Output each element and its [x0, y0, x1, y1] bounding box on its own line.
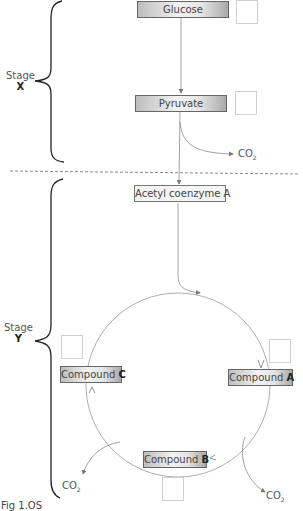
- figure-caption: Fig 1.OS: [1, 500, 42, 511]
- compound-a-letter: A: [287, 372, 295, 383]
- acetyl-coa-label: Acetyl coenzyme A: [135, 188, 230, 199]
- answer-box-compound-a[interactable]: [269, 339, 291, 363]
- glucose-label: Glucose: [163, 4, 203, 15]
- pyruvate-label: Pyruvate: [159, 98, 204, 109]
- compound-b-prefix: Compound: [144, 454, 202, 465]
- compound-c-prefix: Compound: [61, 369, 119, 380]
- co2-label-compound-a: CO2: [266, 490, 285, 503]
- stage-x-label: Stage X: [6, 70, 35, 92]
- acetyl-coa-node: Acetyl coenzyme A: [134, 185, 226, 202]
- stage-y-brace: [35, 179, 63, 498]
- arrow-acetyl-cycle: [178, 203, 200, 293]
- answer-box-compound-b[interactable]: [162, 477, 184, 501]
- co2-label-compound-c: CO2: [62, 480, 81, 493]
- answer-box-compound-c[interactable]: [61, 335, 83, 359]
- answer-box-pyruvate[interactable]: [235, 91, 257, 115]
- arrow-pyruvate-co2: [180, 122, 233, 154]
- co2-label-pyruvate: CO2: [238, 148, 257, 161]
- stage-x-letter: X: [6, 81, 35, 92]
- compound-b-letter: B: [202, 454, 210, 465]
- arrow-compoundC-co2: [83, 442, 120, 474]
- stage-x-text: Stage: [6, 70, 35, 81]
- compound-c-letter: C: [119, 369, 126, 380]
- arrow-compoundA-co2: [242, 437, 265, 492]
- compound-a-node: Compound A: [228, 369, 293, 386]
- stage-x-brace: [35, 1, 64, 162]
- compound-b-node: Compound B: [143, 451, 207, 468]
- stage-y-label: Stage Y: [4, 322, 33, 344]
- answer-box-glucose[interactable]: [236, 0, 258, 24]
- stage-y-text: Stage: [4, 322, 33, 333]
- compound-c-node: Compound C: [60, 366, 122, 383]
- stage-divider: [10, 171, 298, 174]
- glucose-node: Glucose: [137, 1, 229, 18]
- stage-y-letter: Y: [4, 333, 33, 344]
- compound-a-prefix: Compound: [229, 372, 287, 383]
- pyruvate-node: Pyruvate: [135, 95, 227, 112]
